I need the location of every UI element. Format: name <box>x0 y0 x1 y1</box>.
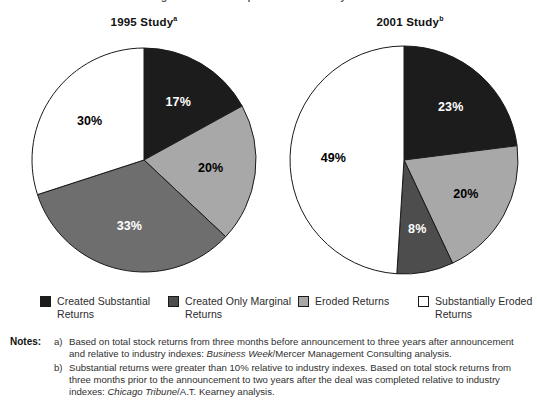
notes-label: Notes: <box>10 336 54 348</box>
pie-slice-label: 20% <box>198 161 223 175</box>
chart-heading-2001: 2001 Studyb <box>330 16 490 28</box>
chart-heading-1995: 1995 Studya <box>64 16 224 28</box>
legend-swatch-icon-substantially-eroded-returns <box>418 296 429 307</box>
legend-label-created-only-marginal-returns: Created Only Marginal Returns <box>185 295 298 320</box>
legend-label-created-substantial-returns: Created Substantial Returns <box>57 295 160 320</box>
chart-heading-1995-text: 1995 Study <box>111 16 174 28</box>
pie-slice-label: 23% <box>438 100 463 114</box>
note-text-a: Based on total stock returns from three … <box>69 336 525 361</box>
legend-item-substantially-eroded-returns: Substantially Eroded Returns <box>418 295 537 320</box>
exhibit-top-title-clipped: Merger Returns Compared with Industry In… <box>0 0 531 9</box>
pie-chart-1995-slices: 17%20%33%30% <box>32 48 256 272</box>
notes-body: a) Based on total stock returns from thr… <box>54 336 525 398</box>
note-item-a: a) Based on total stock returns from thr… <box>54 336 525 361</box>
pie-slice-label: 49% <box>321 151 346 165</box>
legend: Created Substantial Returns Created Only… <box>40 295 510 329</box>
note-text-b: Substantial returns were greater than 10… <box>69 362 525 399</box>
legend-label-eroded-returns: Eroded Returns <box>315 295 389 308</box>
legend-item-created-substantial-returns: Created Substantial Returns <box>40 295 160 320</box>
notes-row: Notes: a) Based on total stock returns f… <box>10 336 525 398</box>
chart-heading-1995-footnote-marker: a <box>173 15 177 22</box>
pie-slice-label: 17% <box>166 95 191 109</box>
legend-label-substantially-eroded-returns: Substantially Eroded Returns <box>435 295 537 320</box>
note-item-b: b) Substantial returns were greater than… <box>54 362 525 399</box>
notes-block: Notes: a) Based on total stock returns f… <box>10 336 525 398</box>
pie-chart-2001: 23%20%8%49% <box>288 46 526 274</box>
legend-swatch-icon-created-only-marginal-returns <box>168 296 179 307</box>
legend-item-eroded-returns: Eroded Returns <box>298 295 398 308</box>
pie-chart-2001-svg: 23%20%8%49% <box>288 46 526 274</box>
legend-item-created-only-marginal-returns: Created Only Marginal Returns <box>168 295 298 320</box>
pie-slice <box>290 46 404 274</box>
legend-swatch-icon-created-substantial-returns <box>40 296 51 307</box>
note-marker-b: b) <box>54 362 69 374</box>
pie-chart-2001-slices: 23%20%8%49% <box>290 46 518 274</box>
note-marker-a: a) <box>54 336 69 348</box>
legend-swatch-icon-eroded-returns <box>298 296 309 307</box>
chart-heading-2001-text: 2001 Study <box>376 16 439 28</box>
pie-slice-label: 33% <box>117 219 142 233</box>
pie-chart-1995: 17%20%33%30% <box>32 46 258 274</box>
chart-heading-2001-footnote-marker: b <box>439 15 443 22</box>
pie-chart-1995-svg: 17%20%33%30% <box>32 46 258 274</box>
pie-slice-label: 8% <box>408 222 426 236</box>
pie-slice-label: 30% <box>77 114 102 128</box>
pie-slice-label: 20% <box>453 187 478 201</box>
exhibit-top-title-text: Merger Returns Compared with Industry In… <box>0 0 531 2</box>
